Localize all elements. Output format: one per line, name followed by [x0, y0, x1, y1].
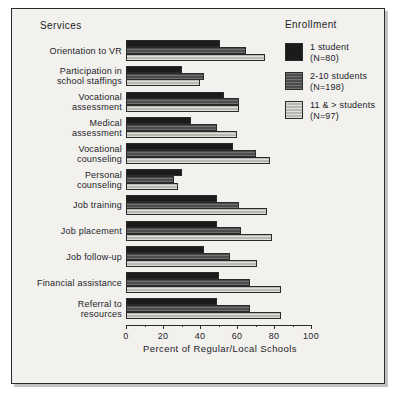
category-label: Vocationalassessment [12, 92, 122, 112]
category-label: Participation inschool staffings [12, 66, 122, 86]
category-label-line: Vocational [12, 144, 122, 154]
category-label-line: Personal [12, 170, 122, 180]
category-label-line: assessment [12, 102, 122, 112]
x-axis-major-tick [200, 325, 201, 329]
bar-2 [126, 157, 270, 164]
category-label-line: assessment [12, 128, 122, 138]
category-label: Job follow-up [12, 252, 122, 262]
category-label: Referral toresources [12, 299, 122, 319]
category-label: Financial assistance [12, 278, 122, 288]
bar-2 [126, 79, 200, 86]
bar-2 [126, 260, 257, 267]
category-label-line: Medical [12, 118, 122, 128]
plot-area: Orientation to VRParticipation inschool … [0, 0, 404, 404]
category-label-line: resources [12, 309, 122, 319]
x-axis-tick-label: 40 [185, 331, 215, 341]
x-axis-tick-label: 80 [259, 331, 289, 341]
category-label: Job placement [12, 226, 122, 236]
bar-2 [126, 105, 239, 112]
bar-2 [126, 234, 272, 241]
bar-2 [126, 312, 281, 319]
x-axis-minor-tick [219, 325, 220, 328]
x-axis-tick-label: 100 [296, 331, 326, 341]
x-axis-tick-label: 20 [148, 331, 178, 341]
category-label-line: Orientation to VR [12, 46, 122, 56]
x-axis-major-tick [274, 325, 275, 329]
category-label-line: Financial assistance [12, 278, 122, 288]
x-axis-major-tick [237, 325, 238, 329]
x-axis-major-tick [163, 325, 164, 329]
category-label-line: counseling [12, 154, 122, 164]
category-label: Vocationalcounseling [12, 144, 122, 164]
category-label-line: Participation in [12, 66, 122, 76]
category-label-line: school staffings [12, 76, 122, 86]
category-label-line: counseling [12, 180, 122, 190]
x-axis-minor-tick [182, 325, 183, 328]
category-label-line: Job placement [12, 226, 122, 236]
x-axis-tick-label: 60 [222, 331, 252, 341]
category-label-line: Vocational [12, 92, 122, 102]
x-axis-title: Percent of Regular/Local Schools [70, 343, 370, 354]
bar-2 [126, 286, 281, 293]
category-label: Orientation to VR [12, 46, 122, 56]
category-label: Personalcounseling [12, 170, 122, 190]
bar-2 [126, 208, 267, 215]
x-axis-tick-label: 0 [111, 331, 141, 341]
category-label: Medicalassessment [12, 118, 122, 138]
x-axis-minor-tick [293, 325, 294, 328]
category-label-line: Job follow-up [12, 252, 122, 262]
bar-2 [126, 183, 178, 190]
bar-2 [126, 54, 265, 61]
category-label: Job training [12, 200, 122, 210]
category-label-line: Job training [12, 200, 122, 210]
x-axis-major-tick [126, 325, 127, 329]
category-label-line: Referral to [12, 299, 122, 309]
bar-2 [126, 131, 237, 138]
x-axis-minor-tick [145, 325, 146, 328]
x-axis-minor-tick [256, 325, 257, 328]
x-axis-major-tick [311, 325, 312, 329]
chart-figure: Services Enrollment 1 student(N=80)2-10 … [0, 0, 404, 404]
